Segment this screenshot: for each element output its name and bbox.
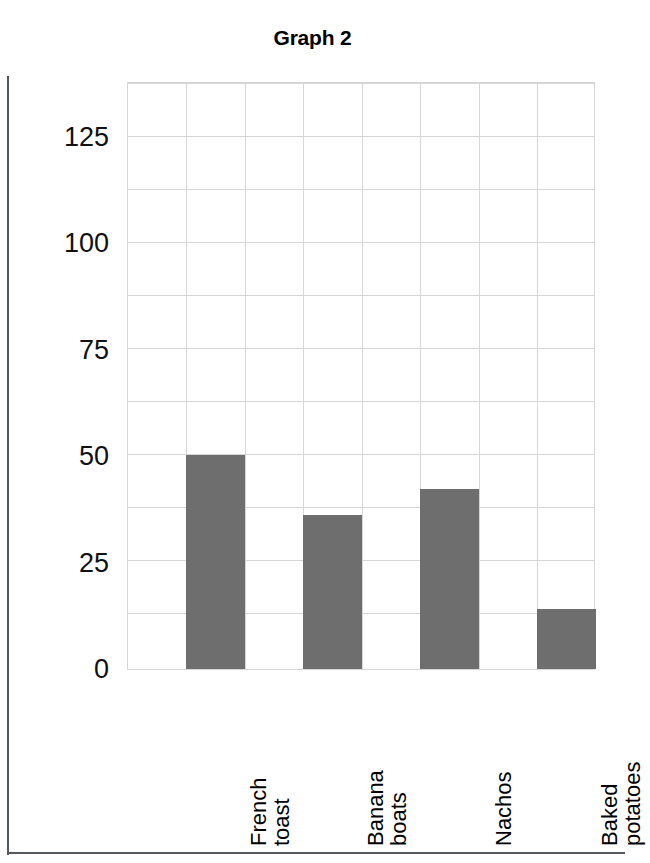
x-tick-label-line: Baked xyxy=(598,676,621,846)
x-tick-label-line: potatoes xyxy=(621,676,644,846)
y-tick-label: 125 xyxy=(64,124,109,151)
bar-nachos[interactable] xyxy=(420,489,479,669)
x-axis: French toast Banana boats Nachos Baked p… xyxy=(127,676,595,846)
y-tick-label: 25 xyxy=(79,550,109,577)
bar-banana-boats[interactable] xyxy=(303,515,362,669)
bar-french-toast[interactable] xyxy=(186,455,245,669)
bar-baked-potatoes[interactable] xyxy=(537,609,596,669)
plot-area xyxy=(127,82,595,670)
y-axis: 125 100 75 50 25 0 xyxy=(0,0,127,863)
x-tick-label-line: toast xyxy=(270,676,293,846)
bars xyxy=(128,83,594,669)
x-tick-label-line: Banana xyxy=(364,676,387,846)
x-tick-label-line: French xyxy=(247,676,270,846)
y-tick-label: 50 xyxy=(79,443,109,470)
y-tick-label: 100 xyxy=(64,230,109,257)
x-tick-baked-potatoes: Baked potatoes xyxy=(536,676,650,734)
x-tick-label-line: Nachos xyxy=(492,676,515,846)
y-tick-label: 0 xyxy=(94,656,109,683)
x-tick-label-line: boats xyxy=(387,676,410,846)
y-tick-label: 75 xyxy=(79,337,109,364)
